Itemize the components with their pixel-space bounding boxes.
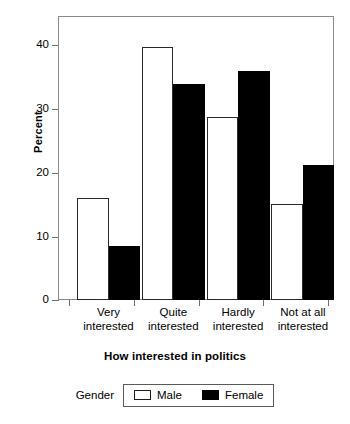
legend-entry-female: Female	[202, 389, 263, 401]
legend-label-female: Female	[225, 389, 263, 401]
legend-swatch-male-icon	[134, 390, 151, 400]
x-axis-title: How interested in politics	[0, 350, 350, 362]
x-category-line2-3: interested	[258, 319, 348, 333]
x-category-label-3: Not at allinterested	[258, 305, 348, 333]
bar-male-1	[142, 47, 174, 300]
x-tick-4	[328, 300, 329, 306]
bar-female-2	[238, 71, 270, 300]
y-tick-label-10: 10	[9, 231, 49, 243]
x-tick-0	[69, 300, 70, 306]
legend-entry-male: Male	[134, 389, 182, 401]
bar-male-3	[271, 204, 303, 300]
x-tick-1	[134, 300, 135, 306]
legend-title: Gender	[76, 389, 114, 401]
bar-female-0	[109, 246, 141, 300]
bar-chart: Percent 40 30 20 10 0 VeryinterestedQuit…	[0, 0, 350, 424]
y-tick-label-20: 20	[9, 167, 49, 179]
bar-male-2	[207, 117, 239, 300]
x-category-line1-3: Not at all	[258, 305, 348, 319]
bar-female-1	[173, 84, 205, 301]
y-tick-0	[52, 300, 59, 301]
y-tick-label-30: 30	[9, 103, 49, 115]
y-tick-label-0: 0	[9, 294, 49, 306]
legend-swatch-female-icon	[202, 390, 219, 400]
x-category-labels: VeryinterestedQuiteinterestedHardlyinter…	[58, 305, 334, 341]
bar-female-3	[303, 165, 335, 300]
legend-box: Male Female	[123, 384, 274, 407]
legend: Gender Male Female	[0, 378, 350, 412]
y-tick-label-40: 40	[9, 39, 49, 51]
bar-male-0	[77, 198, 109, 300]
x-tick-2	[199, 300, 200, 306]
legend-label-male: Male	[157, 389, 182, 401]
x-tick-3	[263, 300, 264, 306]
bars-layer	[58, 16, 334, 300]
